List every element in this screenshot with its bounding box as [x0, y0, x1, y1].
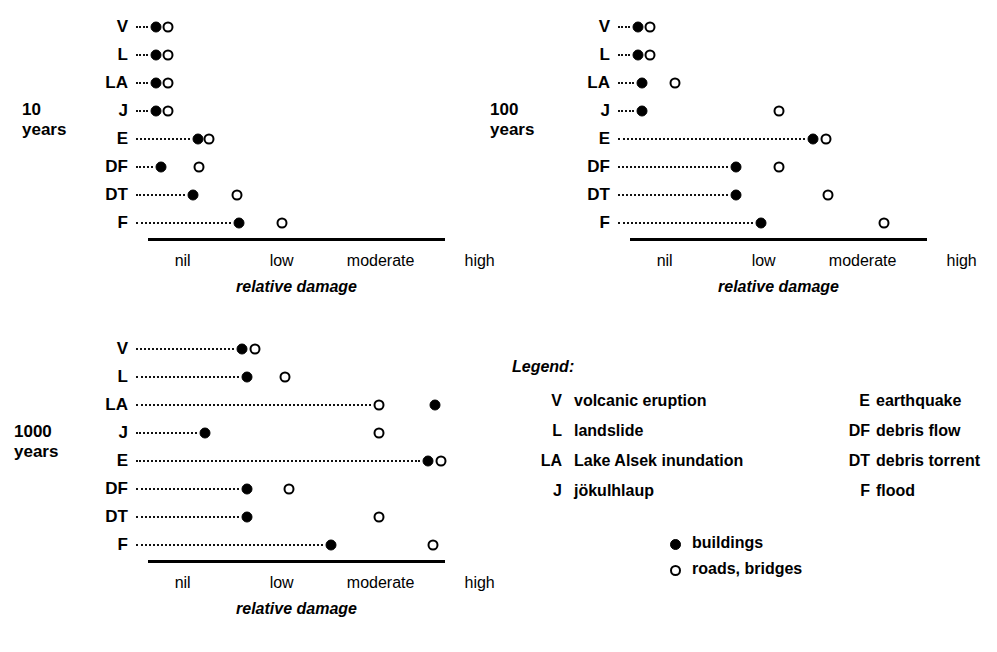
chart-row-J: J: [0, 420, 465, 446]
leader-line: [136, 488, 239, 490]
roads-bridges-marker-J: [373, 428, 384, 439]
plot-area-100-years: VLLAJEDFDTFnillowmoderatehighrelative da…: [482, 0, 952, 305]
axis-title: relative damage: [236, 278, 357, 296]
roads-bridges-marker-V: [249, 344, 260, 355]
axis-line: [630, 238, 927, 241]
chart-row-F: F: [0, 532, 465, 558]
row-label-DT: DT: [587, 185, 610, 205]
open-circle-icon: [670, 565, 681, 576]
roads-bridges-marker-V: [644, 22, 655, 33]
buildings-marker-V: [632, 22, 643, 33]
buildings-marker-J: [636, 106, 647, 117]
row-label-F: F: [118, 535, 128, 555]
row-label-E: E: [117, 451, 128, 471]
roads-bridges-marker-F: [428, 540, 439, 551]
axis-line: [148, 560, 445, 563]
legend-entry-E: E earthquake: [818, 392, 997, 414]
axis-tick-low: low: [752, 252, 776, 270]
row-label-J: J: [119, 101, 128, 121]
axis-tick-nil: nil: [175, 574, 191, 592]
chart-row-DT: DT: [482, 182, 947, 208]
leader-line: [136, 194, 185, 196]
row-label-L: L: [118, 367, 128, 387]
legend-desc: flood: [876, 482, 915, 500]
roads-bridges-marker-E: [821, 134, 832, 145]
roads-bridges-marker-LA: [669, 78, 680, 89]
roads-bridges-marker-L: [162, 50, 173, 61]
legend-abbr: LA: [516, 452, 562, 470]
roads-bridges-marker-DT: [373, 512, 384, 523]
buildings-marker-LA: [150, 78, 161, 89]
legend-entry-L: L landslide: [500, 422, 830, 444]
leader-line: [136, 166, 153, 168]
row-label-DT: DT: [105, 185, 128, 205]
chart-row-L: L: [0, 42, 465, 68]
legend-abbr: V: [516, 392, 562, 410]
roads-bridges-marker-DT: [823, 190, 834, 201]
leader-line: [136, 348, 234, 350]
leader-line: [136, 432, 197, 434]
chart-1000-years: 1000 years VLLAJEDFDTFnillowmoderatehigh…: [0, 322, 470, 627]
row-label-DF: DF: [587, 157, 610, 177]
legend-desc: landslide: [574, 422, 643, 440]
legend-abbr: DT: [830, 452, 870, 470]
roads-bridges-marker-DF: [194, 162, 205, 173]
legend-entry-DF: DF debris flow: [818, 422, 997, 444]
roads-bridges-marker-E: [436, 456, 447, 467]
row-label-F: F: [600, 213, 610, 233]
legend-entry-LA: LA Lake Alsek inundation: [500, 452, 830, 474]
row-label-LA: LA: [105, 395, 128, 415]
leader-line: [136, 26, 148, 28]
axis-line: [148, 238, 445, 241]
leader-line: [618, 54, 630, 56]
plot-area-1000-years: VLLAJEDFDTFnillowmoderatehighrelative da…: [0, 322, 470, 627]
legend-desc: volcanic eruption: [574, 392, 706, 410]
leader-line: [136, 110, 148, 112]
chart-row-LA: LA: [482, 70, 947, 96]
roads-bridges-marker-J: [162, 106, 173, 117]
axis-title: relative damage: [718, 278, 839, 296]
legend-abbr: E: [830, 392, 870, 410]
buildings-marker-F: [234, 218, 245, 229]
legend-desc: debris flow: [876, 422, 960, 440]
buildings-marker-J: [150, 106, 161, 117]
legend-desc: debris torrent: [876, 452, 980, 470]
legend-title: Legend:: [512, 358, 574, 376]
chart-100-years: 100 years VLLAJEDFDTFnillowmoderatehighr…: [482, 0, 952, 305]
buildings-marker-L: [242, 372, 253, 383]
chart-row-E: E: [0, 448, 465, 474]
row-label-DF: DF: [105, 157, 128, 177]
legend-abbr: L: [516, 422, 562, 440]
axis-title: relative damage: [236, 600, 357, 618]
buildings-marker-E: [192, 134, 203, 145]
leader-line: [618, 82, 634, 84]
legend-entry-F: F flood: [818, 482, 997, 504]
axis-tick-nil: nil: [657, 252, 673, 270]
legend-symbol-buildings: buildings: [670, 534, 870, 556]
leader-line: [618, 166, 728, 168]
row-label-J: J: [601, 101, 610, 121]
legend-abbr: DF: [830, 422, 870, 440]
leader-line: [618, 222, 753, 224]
buildings-marker-DF: [242, 484, 253, 495]
chart-row-J: J: [482, 98, 947, 124]
leader-line: [136, 222, 231, 224]
axis-tick-nil: nil: [175, 252, 191, 270]
chart-row-DF: DF: [0, 476, 465, 502]
buildings-marker-E: [423, 456, 434, 467]
leader-line: [136, 404, 371, 406]
buildings-marker-J: [200, 428, 211, 439]
row-label-LA: LA: [587, 73, 610, 93]
buildings-marker-L: [150, 50, 161, 61]
buildings-marker-DT: [242, 512, 253, 523]
row-label-E: E: [117, 129, 128, 149]
chart-row-E: E: [482, 126, 947, 152]
chart-row-F: F: [0, 210, 465, 236]
row-label-E: E: [599, 129, 610, 149]
buildings-marker-E: [808, 134, 819, 145]
leader-line: [136, 138, 190, 140]
legend-entry-V: V volcanic eruption: [500, 392, 830, 414]
leader-line: [618, 26, 630, 28]
roads-bridges-marker-E: [204, 134, 215, 145]
chart-10-years: 10 years VLLAJEDFDTFnillowmoderatehighre…: [0, 0, 470, 305]
